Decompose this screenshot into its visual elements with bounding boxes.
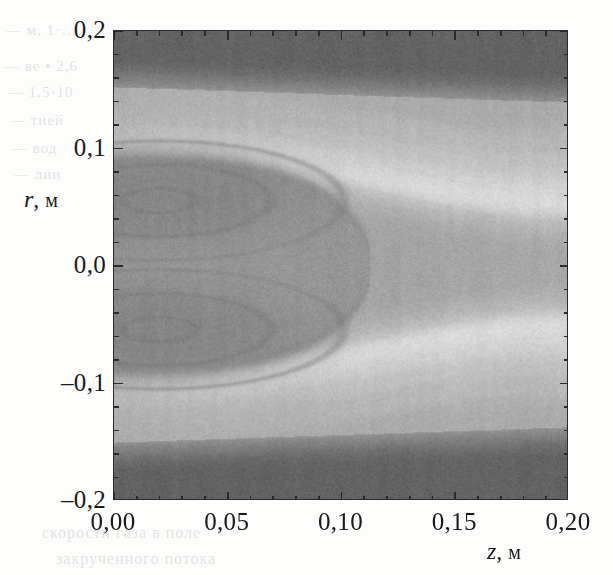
- x-axis-title: z, м: [487, 538, 521, 565]
- x-axis-symbol: z: [487, 538, 496, 564]
- x-tick-label: 0,20: [546, 508, 591, 536]
- x-tick-label: 0,05: [204, 508, 249, 536]
- y-axis-comma: ,: [33, 186, 45, 212]
- y-axis-symbol: r: [24, 186, 33, 212]
- y-tick-label: –0,1: [61, 369, 106, 397]
- bleed-text: закрученного потока: [56, 550, 216, 568]
- field-contour-canvas: [114, 31, 567, 499]
- y-tick-label: 0,0: [74, 251, 106, 279]
- y-axis-tick-labels: 0,20,10,0–0,1–0,2: [10, 30, 106, 500]
- y-tick-label: 0,1: [74, 134, 106, 162]
- y-axis-title: r, м: [24, 186, 58, 213]
- x-tick-label: 0,10: [318, 508, 363, 536]
- x-axis-comma: ,: [496, 538, 508, 564]
- figure-panel: — м, 1·…— ве • 2,6— 1,5·10— тией— вод— л…: [0, 0, 613, 575]
- x-tick-label: 0,00: [91, 508, 136, 536]
- y-axis-unit: м: [45, 189, 58, 211]
- plot-area: [113, 30, 568, 500]
- x-tick-label: 0,15: [432, 508, 477, 536]
- x-axis-tick-labels: 0,000,050,100,150,20: [113, 508, 568, 542]
- y-tick-label: 0,2: [74, 16, 106, 44]
- x-axis-unit: м: [508, 541, 521, 563]
